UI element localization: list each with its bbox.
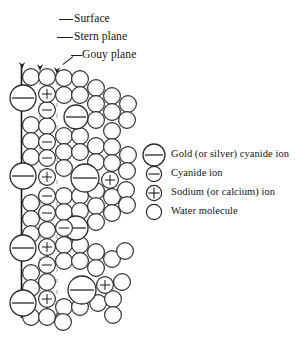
legend-item-gold-cyanide-ion: Gold (or silver) cyanide ion xyxy=(141,145,299,164)
gold-cyanide-ion xyxy=(10,235,36,261)
gold-cyanide-ion xyxy=(10,163,36,189)
legend-label-gold-cyanide-ion: Gold (or silver) cyanide ion xyxy=(171,149,289,160)
surface-arrow-icon xyxy=(19,62,25,69)
sodium-ion xyxy=(39,239,56,256)
sodium-ion xyxy=(97,277,114,294)
legend-label-water-molecule: Water molecule xyxy=(171,206,238,217)
sodium-ion-icon xyxy=(141,183,171,202)
cyanide-ion-icon xyxy=(141,164,171,183)
legend-label-sodium-ion: Sodium (or calcium) ion xyxy=(171,187,275,198)
gold-cyanide-ion xyxy=(10,85,36,111)
sodium-ion xyxy=(102,172,119,189)
gold-cyanide-ion xyxy=(10,290,36,316)
legend-item-sodium-ion: Sodium (or calcium) ion xyxy=(141,183,299,202)
water-molecule-icon xyxy=(141,202,171,221)
legend: Gold (or silver) cyanide ion Cyanide ion… xyxy=(141,145,299,221)
sodium-ion xyxy=(39,169,56,186)
gold-cyanide-ion xyxy=(64,105,88,129)
legend-item-water-molecule: Water molecule xyxy=(141,202,299,221)
gold-cyanide-ion xyxy=(71,164,99,192)
gold-cyanide-ion xyxy=(68,276,96,304)
diagram-page: Surface Stern plane Gouy plane xyxy=(0,0,300,337)
sodium-ion xyxy=(39,291,56,308)
cyanide-ion xyxy=(39,188,56,205)
legend-item-cyanide-ion: Cyanide ion xyxy=(141,164,299,183)
gold-cyanide-ion-icon xyxy=(141,145,171,164)
cyanide-ion xyxy=(39,205,56,222)
cyanide-ion xyxy=(39,257,56,274)
cyanide-ion xyxy=(39,150,56,167)
legend-label-cyanide-ion: Cyanide ion xyxy=(171,168,223,179)
cyanide-ion xyxy=(39,102,56,119)
cyanide-ion xyxy=(56,220,73,237)
cyanide-ion xyxy=(39,134,56,151)
sodium-ion xyxy=(39,86,56,103)
